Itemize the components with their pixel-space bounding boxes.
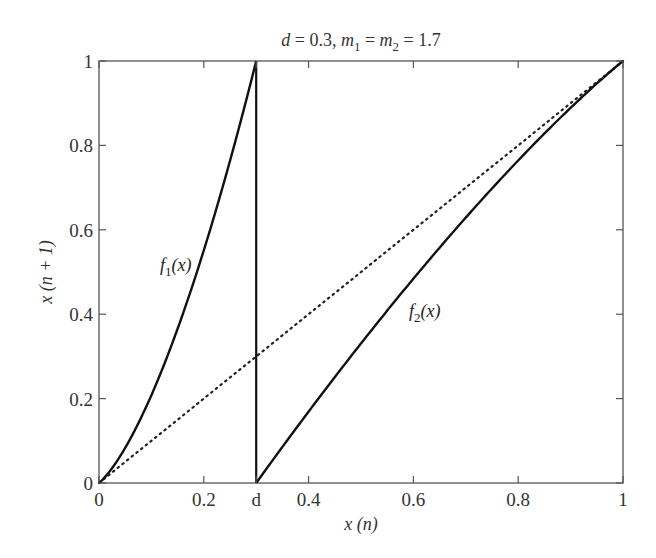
f1-label: f1(x) — [160, 255, 192, 279]
x-axis-label: x (n) — [343, 514, 377, 535]
x-tick-label: 0 — [94, 489, 104, 510]
chart-figure: d = 0.3, m1 = m2 = 1.7 f1(x)f2(x) 00.2d0… — [0, 0, 656, 558]
f2-curve — [256, 61, 623, 483]
x-tick-label: d — [251, 489, 261, 510]
x-tick-label: 0.4 — [297, 489, 321, 510]
y-tick-label: 0.4 — [69, 304, 93, 325]
plot-area: f1(x)f2(x) — [99, 61, 623, 483]
chart-title: d = 0.3, m1 = m2 = 1.7 — [281, 30, 440, 54]
y-axis-label: x (n + 1) — [36, 240, 57, 305]
x-tick-label: 1 — [618, 489, 628, 510]
x-axis-ticks: 00.2d0.40.60.81 — [94, 61, 628, 510]
y-axis-ticks: 00.20.40.60.81 — [69, 51, 623, 494]
f2-label: f2(x) — [409, 301, 441, 325]
y-tick-label: 0 — [84, 473, 94, 494]
y-tick-label: 0.6 — [69, 220, 93, 241]
y-tick-label: 0.8 — [69, 135, 93, 156]
x-tick-label: 0.6 — [402, 489, 426, 510]
x-tick-label: 0.2 — [192, 489, 216, 510]
y-tick-label: 1 — [84, 51, 94, 72]
x-tick-label: 0.8 — [506, 489, 530, 510]
y-tick-label: 0.2 — [69, 389, 93, 410]
